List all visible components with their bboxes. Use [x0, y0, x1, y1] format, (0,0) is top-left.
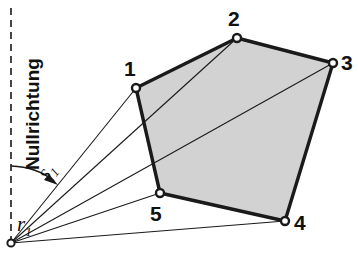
zero-direction-label: Nullrichtung	[22, 58, 44, 170]
vertex-marker-4	[281, 217, 289, 225]
vertex-label-4: 4	[294, 212, 306, 233]
ray-to-vertex-5	[11, 193, 160, 243]
geometry-figure: 1 2 3 4 5 Nullrichtung s1 r1	[0, 0, 358, 255]
vertex-label-1: 1	[124, 58, 136, 79]
vertex-label-3: 3	[341, 52, 353, 73]
angle-label-r1: r1	[17, 212, 32, 240]
station-point-marker	[7, 239, 14, 246]
vertex-marker-1	[132, 84, 140, 92]
vertex-marker-5	[156, 189, 164, 197]
vertex-marker-3	[329, 59, 337, 67]
vertex-label-2: 2	[228, 8, 240, 29]
ray-to-vertex-4	[11, 221, 285, 243]
angle-subscript: 1	[25, 224, 32, 239]
angle-symbol: r	[17, 212, 25, 236]
vertex-marker-2	[233, 34, 241, 42]
vertex-label-5: 5	[150, 203, 162, 224]
